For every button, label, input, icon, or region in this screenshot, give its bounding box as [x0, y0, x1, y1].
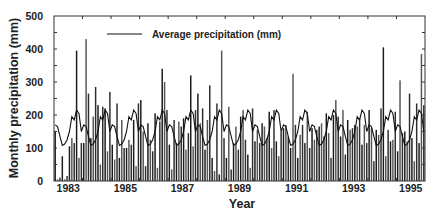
- y-tick-label: 500: [25, 10, 43, 22]
- y-axis-title: Monthly precipitation (mm): [7, 18, 21, 178]
- bar: [97, 105, 98, 181]
- bar: [414, 161, 415, 181]
- bar: [368, 110, 369, 181]
- bar: [318, 127, 319, 181]
- bar: [321, 123, 322, 181]
- y-tick-labels: 0100200300400500: [25, 10, 43, 187]
- bar: [307, 112, 308, 181]
- bar: [202, 108, 203, 181]
- bar: [123, 148, 124, 181]
- bar: [326, 113, 327, 181]
- bar: [254, 141, 255, 181]
- bar: [185, 150, 186, 181]
- bar: [171, 169, 172, 181]
- bar: [404, 132, 405, 182]
- bar: [154, 113, 155, 181]
- bar: [112, 145, 113, 181]
- bar: [345, 155, 346, 181]
- bar: [204, 150, 205, 181]
- bar: [121, 120, 122, 181]
- bar: [297, 158, 298, 181]
- bar: [359, 118, 360, 181]
- bar: [128, 140, 129, 181]
- bar: [93, 117, 94, 181]
- bar: [226, 158, 227, 181]
- bar: [266, 138, 267, 181]
- bar: [361, 145, 362, 181]
- y-tick-label: 0: [37, 175, 43, 187]
- bar: [245, 140, 246, 181]
- bar: [356, 127, 357, 181]
- bar: [235, 127, 236, 181]
- bar: [385, 156, 386, 181]
- bar: [264, 127, 265, 181]
- bar: [164, 82, 165, 181]
- bar: [192, 146, 193, 181]
- bar: [387, 130, 388, 181]
- bar: [238, 150, 239, 181]
- bar: [280, 132, 281, 182]
- bar: [347, 120, 348, 181]
- bar: [283, 128, 284, 181]
- bar: [211, 158, 212, 181]
- bar: [309, 148, 310, 181]
- bar: [188, 133, 189, 181]
- y-tick-label: 300: [25, 76, 43, 88]
- x-tick-label: 1989: [228, 182, 252, 194]
- bar: [81, 143, 82, 181]
- bar: [73, 143, 74, 181]
- bar: [342, 110, 343, 181]
- bar: [376, 130, 377, 181]
- bar: [214, 171, 215, 181]
- bar: [257, 130, 258, 181]
- bar: [145, 166, 146, 181]
- bar: [328, 133, 329, 181]
- bar: [100, 165, 101, 182]
- bar: [135, 166, 136, 181]
- bar: [207, 120, 208, 181]
- x-tick-label: 1991: [285, 182, 309, 194]
- legend-label: Average precipitation (mm): [152, 29, 281, 40]
- bar: [181, 127, 182, 181]
- bar: [107, 151, 108, 181]
- bar: [302, 125, 303, 181]
- bar: [349, 130, 350, 181]
- x-tick-label: 1985: [114, 182, 138, 194]
- bar: [159, 122, 160, 181]
- bar: [249, 168, 250, 181]
- bar: [330, 158, 331, 181]
- bar: [323, 136, 324, 181]
- x-tick-label: 1983: [57, 182, 81, 194]
- bar: [109, 92, 110, 181]
- bar: [233, 143, 234, 181]
- x-tick-label: 1995: [399, 182, 423, 194]
- bar: [176, 143, 177, 181]
- precipitation-chart: 0100200300400500 19831985198719891991199…: [0, 0, 437, 217]
- bar: [178, 122, 179, 181]
- bar: [209, 85, 210, 181]
- bar: [397, 151, 398, 181]
- bar: [223, 138, 224, 181]
- bar: [295, 125, 296, 181]
- bar: [311, 128, 312, 181]
- bar: [142, 132, 143, 182]
- bar: [54, 132, 55, 182]
- bar: [299, 135, 300, 181]
- bar: [71, 138, 72, 181]
- bar: [247, 155, 248, 181]
- bar: [268, 112, 269, 181]
- x-tick-label: 1993: [342, 182, 366, 194]
- bar: [200, 123, 201, 181]
- bar: [190, 75, 191, 181]
- bar: [416, 103, 417, 181]
- bar: [285, 125, 286, 181]
- bar: [392, 140, 393, 181]
- bar: [166, 110, 167, 181]
- bar: [340, 136, 341, 181]
- bar: [390, 141, 391, 181]
- bar: [152, 151, 153, 181]
- bar: [271, 148, 272, 181]
- bar: [169, 145, 170, 181]
- bar: [230, 169, 231, 181]
- bar: [157, 168, 158, 181]
